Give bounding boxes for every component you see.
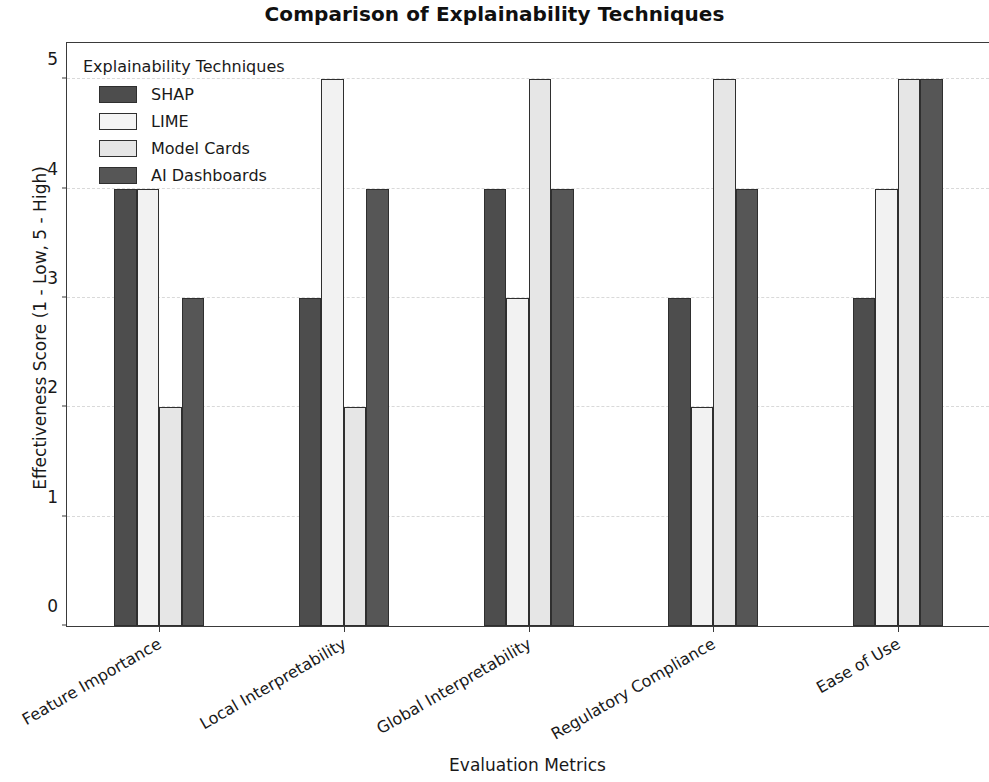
bar [551, 189, 574, 626]
legend-entry[interactable]: AI Dashboards [83, 162, 285, 189]
bar [875, 189, 898, 626]
bar [137, 189, 160, 626]
x-tick-label-text: Ease of Use [813, 634, 904, 697]
bar [159, 407, 182, 626]
bar [506, 298, 529, 626]
bar [529, 79, 552, 626]
bar [182, 298, 205, 626]
legend-label: LIME [151, 112, 189, 131]
x-tick-mark [529, 626, 530, 632]
bar [920, 79, 943, 626]
x-tick-mark [898, 626, 899, 632]
chart-title: Comparison of Explainability Techniques [0, 2, 989, 26]
legend-label: AI Dashboards [151, 166, 267, 185]
chart-legend: Explainability Techniques SHAPLIMEModel … [77, 53, 293, 195]
bar [668, 298, 691, 626]
x-tick-label-text: Regulatory Compliance [548, 634, 719, 744]
bar [114, 189, 137, 626]
bar [299, 298, 322, 626]
x-tick-label-text: Feature Importance [19, 634, 165, 729]
legend-entry[interactable]: SHAP [83, 81, 285, 108]
bar [344, 407, 367, 626]
x-tick-mark [159, 626, 160, 632]
legend-label: Model Cards [151, 139, 250, 158]
legend-label: SHAP [151, 85, 194, 104]
legend-entry[interactable]: LIME [83, 108, 285, 135]
plot-area: 012345 Feature ImportanceLocal Interpret… [66, 42, 989, 627]
legend-entry[interactable]: Model Cards [83, 135, 285, 162]
x-tick-mark [344, 626, 345, 632]
x-tick-mark [713, 626, 714, 632]
legend-entries: SHAPLIMEModel CardsAI Dashboards [83, 81, 285, 189]
chart-figure: Comparison of Explainability Techniques … [0, 0, 989, 782]
legend-swatch-icon [99, 140, 137, 157]
legend-swatch-icon [99, 167, 137, 184]
bar [713, 79, 736, 626]
legend-title: Explainability Techniques [83, 57, 285, 76]
bar [853, 298, 876, 626]
y-axis-label: Effectiveness Score (1 - Low, 5 - High) [30, 48, 50, 608]
bar [736, 189, 759, 626]
x-axis-label: Evaluation Metrics [66, 755, 989, 775]
x-tick-label-text: Local Interpretability [196, 634, 349, 733]
bar [484, 189, 507, 626]
bar [366, 189, 389, 626]
bar [898, 79, 921, 626]
legend-swatch-icon [99, 113, 137, 130]
bar [691, 407, 714, 626]
x-tick-label-text: Global Interpretability [373, 634, 534, 738]
legend-swatch-icon [99, 86, 137, 103]
bar [321, 79, 344, 626]
